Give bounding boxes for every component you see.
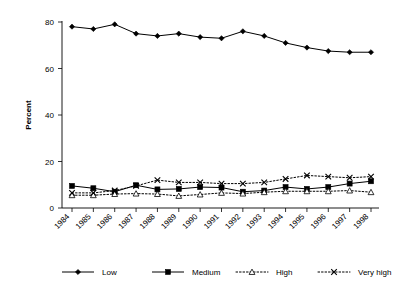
line-chart-figure: Percent 0 20 40 60 80 198419851986198719… bbox=[0, 0, 401, 290]
y-tick-label: 80 bbox=[45, 18, 54, 27]
data-point-square bbox=[347, 181, 352, 186]
legend-label: Very high bbox=[358, 268, 391, 277]
y-axis-title-text: Percent bbox=[24, 100, 33, 130]
y-tick-label: 0 bbox=[50, 204, 55, 213]
legend-label: High bbox=[276, 268, 292, 277]
data-point-square bbox=[91, 186, 96, 191]
data-point-square bbox=[70, 183, 75, 188]
y-tick-label: 40 bbox=[45, 111, 54, 120]
data-point-square bbox=[166, 270, 171, 275]
legend-label: Medium bbox=[192, 268, 221, 277]
data-point-square bbox=[198, 185, 203, 190]
y-tick-label: 20 bbox=[45, 158, 54, 167]
chart-background bbox=[0, 0, 401, 290]
chart-container: Percent 0 20 40 60 80 198419851986198719… bbox=[0, 0, 401, 290]
y-axis-title: Percent bbox=[24, 100, 33, 130]
y-tick-label: 60 bbox=[45, 65, 54, 74]
legend-label: Low bbox=[102, 268, 117, 277]
data-point-square bbox=[176, 186, 181, 191]
data-point-square bbox=[369, 179, 374, 184]
